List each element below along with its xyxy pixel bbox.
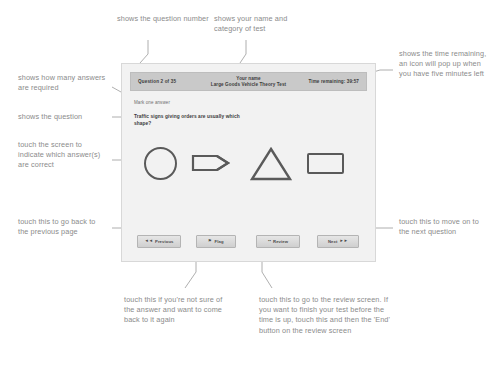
- leader-name-category: [240, 40, 246, 63]
- answer-option-rectangle[interactable]: [307, 153, 344, 174]
- flag-button-label: Flag: [215, 239, 224, 244]
- answer-option-arrow[interactable]: [191, 153, 231, 177]
- circle-shape-icon: [144, 147, 177, 180]
- callout-name-and-category: shows your name and category of test: [214, 14, 318, 34]
- navigation-button-row: ◄◄ Previous ⚑ Flag •• Review Next ►►: [134, 235, 363, 249]
- test-screen-content: Question 2 of 35 Your name Large Goods V…: [130, 72, 367, 253]
- answer-option-circle[interactable]: [144, 147, 177, 180]
- callout-time-remaining: shows the time remaining, an icon will p…: [399, 49, 489, 80]
- flag-button[interactable]: ⚑ Flag: [196, 235, 236, 248]
- previous-button[interactable]: ◄◄ Previous: [137, 235, 181, 248]
- test-screen-device: Question 2 of 35 Your name Large Goods V…: [121, 63, 376, 262]
- flag-icon: ⚑: [208, 239, 212, 243]
- mark-instruction: Mark one answer: [134, 100, 367, 105]
- next-button-label: Next: [328, 239, 337, 244]
- time-remaining-label: Time remaining: 39:57: [308, 79, 359, 84]
- answer-option-triangle[interactable]: [250, 146, 292, 186]
- leader-question-number: [140, 40, 148, 63]
- pennant-arrow-shape-icon: [191, 153, 231, 173]
- double-left-arrow-icon: ◄◄: [145, 239, 154, 243]
- callout-flag: touch this if you're not sure of the ans…: [124, 295, 228, 326]
- review-dots-icon: ••: [268, 239, 271, 243]
- callout-previous: touch this to go back to the previous pa…: [18, 217, 106, 237]
- callout-touch-screen: touch the screen to indicate which answe…: [18, 140, 104, 171]
- review-button-label: Review: [273, 239, 288, 244]
- double-right-arrow-icon: ►►: [339, 239, 348, 243]
- next-button[interactable]: Next ►►: [317, 235, 359, 248]
- annotated-test-screen-diagram: shows the question number shows your nam…: [0, 0, 491, 366]
- callout-review: touch this to go to the review screen. I…: [259, 295, 391, 336]
- triangle-shape-icon: [250, 146, 292, 182]
- callout-answers-required: shows how many answers are required: [18, 73, 114, 93]
- answer-options-row: [134, 144, 363, 192]
- callout-next: touch this to move on to the next questi…: [399, 217, 487, 237]
- rectangle-shape-icon: [307, 153, 344, 174]
- question-text: Traffic signs giving orders are usually …: [134, 114, 254, 127]
- test-header-bar: Question 2 of 35 Your name Large Goods V…: [130, 72, 367, 91]
- callout-question-number: shows the question number: [117, 14, 209, 24]
- callout-question: shows the question: [18, 112, 114, 122]
- previous-button-label: Previous: [155, 239, 174, 244]
- review-button[interactable]: •• Review: [256, 235, 300, 248]
